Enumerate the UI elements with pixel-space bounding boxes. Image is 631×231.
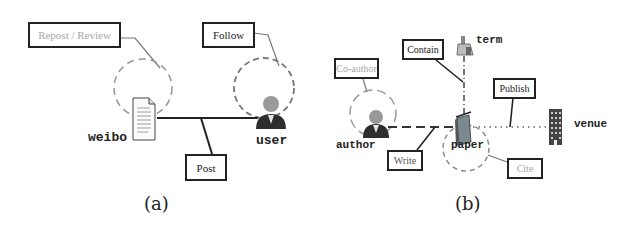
heterogeneous-network-figure: Repost / Review Follow Post weibo user (… [0, 0, 631, 231]
cite-connector [488, 155, 507, 162]
follow-label: Follow [213, 29, 244, 41]
co-author-label: Co-author [336, 63, 377, 74]
repost-review-label: Repost / Review [38, 29, 111, 41]
cite-relation-box: Cite [507, 158, 543, 179]
contain-connector [436, 60, 463, 82]
co-author-relation-box: Co-author [334, 58, 379, 79]
post-label: Post [197, 162, 216, 174]
author-icon [363, 110, 389, 138]
write-relation-box: Write [387, 150, 423, 171]
venue-node-label: venue [574, 118, 607, 130]
weibo-node-label: weibo [88, 130, 127, 145]
panel-b-caption: (b) [455, 193, 481, 214]
user-self-loop [234, 58, 294, 118]
panel-a-caption: (a) [144, 193, 169, 214]
term-icon [457, 36, 473, 55]
user-icon [256, 96, 286, 129]
paper-node-label: paper [451, 139, 484, 151]
venue-icon [549, 109, 562, 145]
repost-review-connector [120, 38, 160, 68]
post-connector [201, 118, 212, 154]
user-node-label: user [256, 133, 287, 148]
author-node-label: author [336, 139, 376, 151]
write-label: Write [394, 155, 416, 166]
publish-connector [510, 98, 513, 127]
cite-label: Cite [517, 163, 534, 174]
write-connector [417, 127, 435, 150]
document-icon [133, 98, 155, 140]
publish-label: Publish [499, 83, 529, 94]
follow-relation-box: Follow [202, 22, 255, 48]
contain-relation-box: Contain [402, 39, 444, 60]
publish-relation-box: Publish [493, 78, 536, 99]
contain-label: Contain [407, 44, 439, 55]
term-node-label: term [476, 34, 502, 46]
repost-review-relation-box: Repost / Review [28, 22, 121, 48]
post-relation-box: Post [185, 154, 227, 181]
co-author-connector [363, 79, 367, 92]
